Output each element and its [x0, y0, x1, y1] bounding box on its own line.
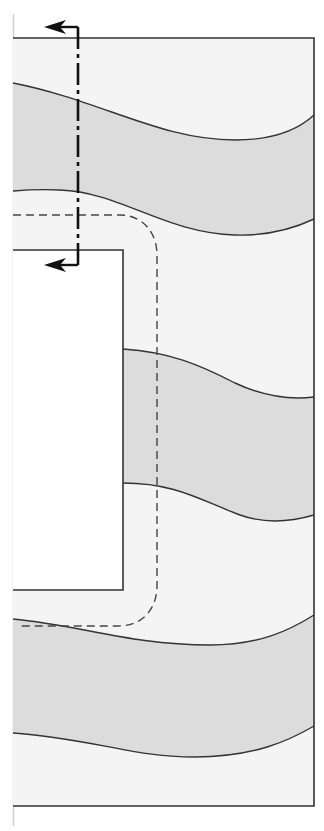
layered-section-diagram — [0, 0, 324, 831]
cutout-notch — [13, 250, 123, 590]
